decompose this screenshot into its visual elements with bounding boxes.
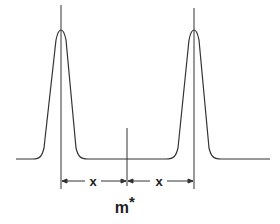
dimension-label-left: x: [89, 174, 97, 189]
peak-diagram: x x m *: [0, 0, 280, 224]
spectrum-curve: [16, 30, 270, 159]
dimension-label-right: x: [155, 174, 163, 189]
midpoint-label-superscript: *: [129, 193, 135, 210]
midpoint-label: m: [115, 199, 129, 216]
